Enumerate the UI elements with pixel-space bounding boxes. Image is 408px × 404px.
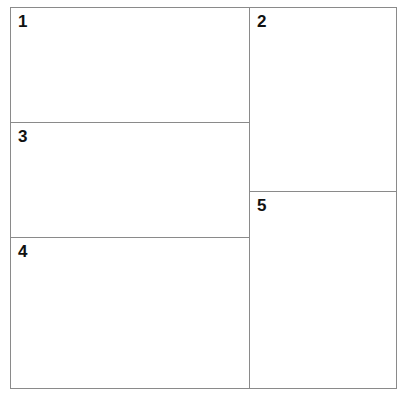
panel-label: 5 bbox=[257, 197, 266, 214]
panel-label: 1 bbox=[18, 13, 27, 30]
panel-3: 3 bbox=[11, 123, 249, 237]
panel-1: 1 bbox=[11, 8, 249, 122]
layout-frame: 1 2 3 4 5 bbox=[10, 7, 397, 389]
panel-2: 2 bbox=[250, 8, 396, 191]
panel-5: 5 bbox=[250, 192, 396, 388]
panel-label: 4 bbox=[18, 243, 27, 260]
panel-label: 3 bbox=[18, 128, 27, 145]
panel-4: 4 bbox=[11, 238, 249, 388]
panel-label: 2 bbox=[257, 13, 266, 30]
